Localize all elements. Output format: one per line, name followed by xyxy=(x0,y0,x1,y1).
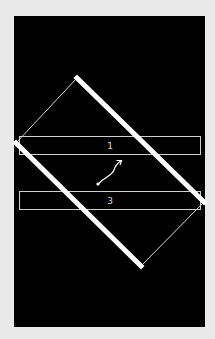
rect-edge-top-right-thick xyxy=(77,78,204,202)
rect-edge-bottom-right xyxy=(141,202,204,266)
diagram-scene: 1 3 xyxy=(0,0,215,339)
curved-arrow-icon xyxy=(96,161,121,186)
box-1[interactable]: 1 xyxy=(20,137,201,155)
box-3[interactable]: 3 xyxy=(20,192,201,210)
rect-edge-bottom-left-thick xyxy=(16,143,141,266)
box-1-label: 1 xyxy=(107,141,113,151)
box-3-label: 3 xyxy=(107,196,113,206)
rect-edge-top-left xyxy=(16,78,77,143)
